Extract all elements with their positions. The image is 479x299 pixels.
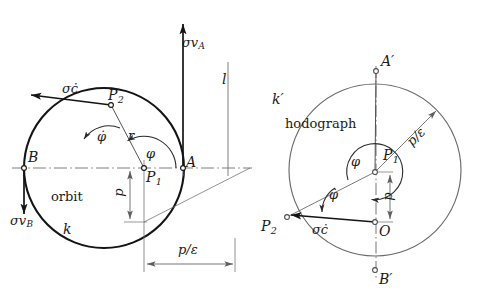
label-point-p2: P2 <box>108 88 124 104</box>
label-hodograph-curve-name: hodograph <box>285 117 356 130</box>
label-point-p2-prime: P2 <box>261 219 277 235</box>
label-phi-dot-left: φ̇ <box>97 130 106 143</box>
label-sigma-cdot-right: σċ <box>312 223 328 236</box>
a-prime-to-p1-prime-segment <box>375 71 376 172</box>
point-marker-b <box>22 166 27 171</box>
label-point-a-prime: A′ <box>381 54 394 68</box>
sigma-cdot-vector-left <box>31 95 111 105</box>
label-p-over-eps-right: p/ε <box>406 130 426 143</box>
label-circle-k: k <box>63 222 71 236</box>
label-orbit-curve-name: orbit <box>51 190 83 203</box>
label-point-a: A <box>186 155 196 169</box>
point-marker-a <box>181 166 186 171</box>
point-marker-p1-prime <box>373 170 378 175</box>
label-r-left: r <box>128 129 134 142</box>
point-marker-a-prime <box>374 69 379 74</box>
label-directrix-l: l <box>222 72 226 86</box>
label-p-left: p <box>114 186 122 199</box>
label-sigma-cdot-left: σċ <box>62 82 78 95</box>
label-point-o: O <box>379 224 390 238</box>
label-sigma-v-a: σvA <box>182 36 205 51</box>
label-point-p1: P1 <box>146 170 162 186</box>
label-point-b: B <box>28 150 38 164</box>
label-circle-k-prime: k′ <box>272 92 284 106</box>
label-p-over-eps-left: p/ε <box>178 243 198 256</box>
label-p-right: p <box>383 190 391 203</box>
point-marker-p2-prime <box>285 215 290 220</box>
point-marker-o <box>373 220 378 225</box>
diagram-svg <box>0 0 479 299</box>
label-point-p1-prime: P1 <box>383 148 399 164</box>
label-phi-dot-right: φ̇ <box>329 188 338 201</box>
label-phi-right: φ <box>351 155 360 168</box>
label-phi-left: φ <box>146 147 155 160</box>
point-marker-b-prime <box>373 268 378 273</box>
label-point-b-prime: B′ <box>379 272 392 286</box>
label-sigma-v-b: σvB <box>10 214 33 229</box>
figure-canvas: A B P1 P2 σvA σvB σċ φ φ̇ r p orbit k l … <box>0 0 479 299</box>
